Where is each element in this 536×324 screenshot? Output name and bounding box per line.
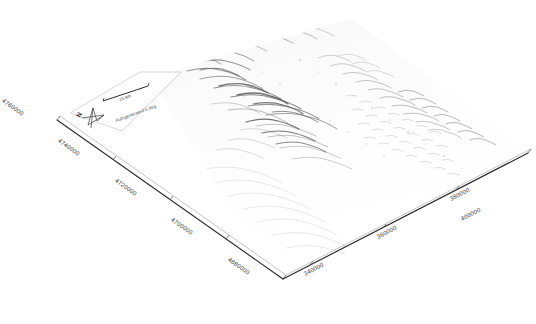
legend-box	[70, 72, 181, 131]
figure-canvas: 4760000 4740000 4720000 4700000 4680000 …	[0, 0, 536, 324]
legend-panel[interactable]: 15 km N Autogenerated 5 deg	[0, 0, 536, 324]
